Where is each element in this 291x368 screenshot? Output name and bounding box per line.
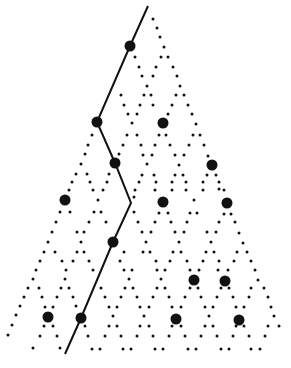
small-dot <box>218 181 221 184</box>
small-dot <box>218 188 221 191</box>
large-dot <box>158 197 169 208</box>
small-dot <box>91 348 94 351</box>
small-dot <box>206 174 209 177</box>
small-dot <box>158 134 161 137</box>
small-dot <box>223 189 226 192</box>
small-dot <box>263 287 266 290</box>
small-dot <box>163 46 166 49</box>
small-dot <box>136 113 139 116</box>
small-dot <box>123 269 126 272</box>
small-dot <box>156 27 159 30</box>
small-dot <box>200 335 203 338</box>
small-dot <box>80 241 83 244</box>
small-dot <box>23 296 26 299</box>
small-dot <box>213 251 216 254</box>
small-dot <box>169 144 172 147</box>
small-dot <box>176 75 179 78</box>
small-dot <box>105 221 108 224</box>
small-dot <box>243 325 246 328</box>
small-dot <box>116 325 119 328</box>
small-dot <box>233 260 236 263</box>
small-dot <box>238 232 241 235</box>
small-dot <box>84 153 87 156</box>
small-dot <box>187 348 190 351</box>
small-dot <box>254 269 257 272</box>
large-dot <box>76 313 87 324</box>
large-dot <box>234 315 245 326</box>
small-dot <box>123 251 126 254</box>
small-dot <box>128 278 131 281</box>
small-dot <box>92 269 95 272</box>
small-dot <box>186 260 189 263</box>
small-dot <box>76 231 79 234</box>
small-dot <box>124 287 127 290</box>
small-dot <box>171 306 174 309</box>
large-dot <box>125 41 136 52</box>
small-dot <box>152 335 155 338</box>
small-dot <box>71 181 74 184</box>
small-dot <box>108 325 111 328</box>
small-dot <box>250 260 253 263</box>
small-dot <box>204 306 207 309</box>
small-dot <box>207 155 210 158</box>
small-dot <box>257 279 260 282</box>
small-dot <box>230 213 233 216</box>
small-dot <box>175 94 178 97</box>
small-dot <box>182 174 185 177</box>
small-dot <box>187 104 190 107</box>
small-dot <box>76 251 79 254</box>
small-dot <box>52 306 55 309</box>
small-dot <box>232 335 235 338</box>
small-dot <box>84 325 87 328</box>
small-dot <box>218 260 221 263</box>
small-dot <box>11 324 14 327</box>
small-dot <box>168 335 171 338</box>
small-dot <box>59 211 62 214</box>
small-dot <box>64 278 67 281</box>
small-dot <box>183 231 186 234</box>
small-dot <box>228 287 231 290</box>
small-dot <box>188 144 191 147</box>
small-dot <box>118 153 121 156</box>
small-dot <box>172 66 175 69</box>
small-dot <box>106 181 109 184</box>
small-dot <box>180 325 183 328</box>
small-dot <box>195 123 198 126</box>
small-dot <box>167 212 170 215</box>
small-dot <box>250 348 253 351</box>
small-dot <box>171 189 174 192</box>
small-dot <box>192 134 195 137</box>
small-dot <box>232 296 235 299</box>
small-dot <box>139 104 142 107</box>
small-dot <box>119 260 122 263</box>
small-dot <box>152 296 155 299</box>
large-dot <box>222 198 233 209</box>
small-dot <box>167 56 170 59</box>
small-dot <box>227 269 230 272</box>
small-dot <box>72 260 75 263</box>
small-dot <box>32 347 35 350</box>
large-dot <box>60 195 71 206</box>
small-dot <box>130 348 133 351</box>
small-dot <box>89 181 92 184</box>
small-dot <box>138 181 141 184</box>
small-dot <box>162 348 165 351</box>
small-dot <box>168 296 171 299</box>
small-dot <box>138 66 141 69</box>
small-dot <box>52 325 55 328</box>
small-dot <box>151 154 154 157</box>
small-dot <box>202 189 205 192</box>
small-dot <box>193 199 196 202</box>
large-dot <box>220 276 231 287</box>
small-dot <box>27 287 30 290</box>
small-dot <box>148 306 151 309</box>
small-dot <box>155 181 158 184</box>
small-dot <box>200 296 203 299</box>
small-dot <box>134 56 137 59</box>
small-dot <box>87 335 90 338</box>
small-dot <box>206 231 209 234</box>
small-dot <box>154 189 157 192</box>
small-dot <box>246 251 249 254</box>
small-dot <box>134 189 137 192</box>
small-dot <box>180 251 183 254</box>
